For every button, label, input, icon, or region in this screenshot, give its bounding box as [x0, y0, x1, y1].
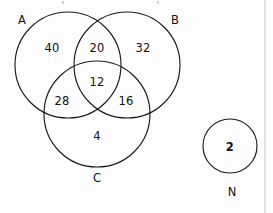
scan-artifacts — [62, 1, 159, 4]
region-value-b-only: 32 — [135, 41, 150, 55]
region-value-a-only: 40 — [44, 41, 59, 55]
region-value-a-and-b: 20 — [89, 41, 104, 55]
region-value-a-and-c: 28 — [54, 94, 69, 108]
set-label-n: N — [228, 185, 237, 199]
venn-diagram: A B C N 40 20 32 12 28 16 4 2 — [0, 0, 273, 213]
region-value-a-b-c: 12 — [89, 75, 104, 89]
set-label-b: B — [171, 13, 179, 27]
set-label-c: C — [93, 171, 101, 185]
diagram-canvas: A B C N 40 20 32 12 28 16 4 2 — [0, 0, 273, 213]
region-value-b-and-c: 16 — [118, 94, 133, 108]
region-value-c-only: 4 — [93, 129, 101, 143]
set-label-a: A — [18, 13, 26, 27]
region-value-n: 2 — [226, 140, 234, 154]
